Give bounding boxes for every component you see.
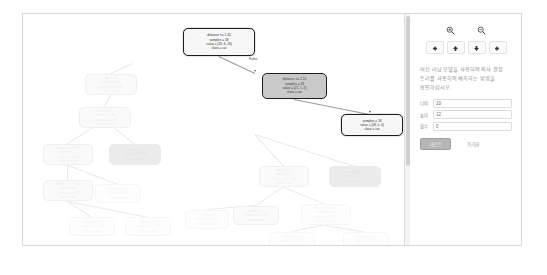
tree-canvas-panel[interactable]: age <= 0.5samples = 34value = [5, 5, 24]… bbox=[23, 14, 404, 245]
tree-edge bbox=[255, 186, 284, 206]
tree-edge bbox=[114, 128, 135, 145]
reset-button[interactable]: 초기화 bbox=[460, 138, 486, 150]
pan-up-button[interactable] bbox=[447, 41, 465, 54]
app-window: age <= 0.5samples = 34value = [5, 5, 24]… bbox=[22, 13, 522, 246]
tree-edge bbox=[294, 99, 370, 115]
height-field-label: 높이 bbox=[420, 112, 433, 118]
tree-node-inactive[interactable]: age <= 0.5samples = 6value = [3, 1, 2]cl… bbox=[259, 166, 309, 187]
node-text-line: class = car bbox=[84, 229, 99, 233]
count-field-label: 횟수 bbox=[420, 123, 433, 129]
node-text-line: class = bus bbox=[60, 195, 76, 199]
pan-down-button[interactable] bbox=[468, 41, 486, 54]
arrow-up-icon bbox=[452, 40, 459, 55]
tree-node-inactive[interactable]: speed <= 1.1samples = 34value = [5, 5, 2… bbox=[79, 107, 131, 128]
parameter-row: 높이 bbox=[420, 110, 512, 119]
node-text-line: class = truck bbox=[102, 89, 120, 93]
width-field-label: 너비 bbox=[420, 100, 433, 106]
vertical-scrollbar-thumb[interactable] bbox=[406, 16, 410, 166]
node-text-line: class = truck bbox=[59, 159, 77, 163]
node-text-line: class = bus bbox=[248, 218, 264, 222]
tree-node-inactive[interactable]: samples = 1value = [1, 0, 0]class = car bbox=[69, 217, 115, 236]
arrow-right-icon bbox=[494, 40, 501, 55]
tree-node-inactive[interactable]: samples = 4value = [3, 0, 1]class = car bbox=[329, 166, 381, 187]
pan-left-button[interactable] bbox=[426, 41, 444, 54]
edge-label-false: False bbox=[249, 57, 257, 61]
parameter-field-list: 너비높이횟수 bbox=[420, 99, 512, 131]
tree-edge bbox=[104, 95, 111, 107]
tree-edge bbox=[67, 165, 68, 180]
zoom-in-button[interactable] bbox=[443, 24, 458, 36]
node-text-line: class = truck bbox=[317, 219, 335, 223]
tree-node-inactive[interactable]: samples = 2value = [0, 0, 2]class = truc… bbox=[269, 232, 315, 245]
tree-node-active[interactable]: samples = 18value = [18, 0, 0]class = ca… bbox=[341, 114, 403, 136]
arrow-down-icon bbox=[473, 40, 480, 55]
tree-node-inactive[interactable]: age <= 0.5samples = 34value = [5, 5, 24]… bbox=[85, 74, 137, 95]
tree-node-inactive[interactable]: distance <= 1.35samples = 4value = [1, 3… bbox=[43, 180, 93, 201]
arrow-left-icon bbox=[431, 40, 438, 55]
zoom-out-icon bbox=[477, 26, 486, 35]
node-text-line: class = car bbox=[211, 46, 226, 50]
tree-node-active[interactable]: distance <= 2.15samples = 24value = [21,… bbox=[262, 73, 327, 99]
tree-edge bbox=[111, 63, 133, 74]
decision-tree-graph[interactable]: age <= 0.5samples = 34value = [5, 5, 24]… bbox=[23, 14, 404, 245]
node-text-line: class = car bbox=[199, 222, 214, 226]
action-button-row: 테스트 초기화 bbox=[420, 138, 512, 150]
pan-right-button[interactable] bbox=[489, 41, 507, 54]
node-text-line: class = car bbox=[287, 90, 302, 94]
tree-node-inactive[interactable]: distance <= 1.75samples = 4value = [1, 1… bbox=[301, 204, 351, 225]
tree-edge bbox=[67, 127, 93, 144]
tree-node-inactive[interactable]: samples = 2value = [1, 0, 1]class = car bbox=[343, 232, 389, 245]
tree-edge bbox=[284, 187, 326, 205]
tree-node-active[interactable]: distance <= 1.45samples = 58value = [26,… bbox=[183, 28, 255, 56]
pan-button-row bbox=[420, 41, 512, 54]
tree-node-inactive[interactable]: samples = 3value = [0, 3, 0]class = bus bbox=[125, 217, 171, 236]
tree-node-inactive[interactable]: distance <= 0.85samples = 7value = [4, 3… bbox=[43, 144, 93, 165]
control-panel: 머신 러닝 모델을 사용하여 의사 결정 트리를 사용하여 예측하는 방법을 확… bbox=[410, 14, 521, 245]
parameter-row: 너비 bbox=[420, 99, 512, 108]
zoom-button-row bbox=[420, 24, 512, 36]
node-text-line: class = truck bbox=[126, 157, 144, 161]
parameter-row: 횟수 bbox=[420, 122, 512, 131]
node-text-line: class = car bbox=[364, 127, 379, 131]
edge-arrow-icon bbox=[254, 70, 256, 72]
edge-arrow-icon bbox=[369, 111, 371, 113]
tree-node-inactive[interactable]: samples = 2value = [1, 1, 0]class = car bbox=[185, 210, 229, 229]
tree-node-inactive[interactable]: samples = 3value = [3, 0, 0]class = car bbox=[95, 184, 141, 203]
zoom-out-button[interactable] bbox=[474, 24, 489, 36]
help-text: 머신 러닝 모델을 사용하여 의사 결정 트리를 사용하여 예측하는 방법을 확… bbox=[420, 65, 512, 92]
test-button[interactable]: 테스트 bbox=[420, 138, 451, 150]
height-field[interactable] bbox=[433, 110, 512, 119]
zoom-in-icon bbox=[446, 26, 455, 35]
node-text-line: class = bus bbox=[140, 229, 156, 233]
node-text-line: class = car bbox=[110, 196, 125, 200]
node-text-line: class = truck bbox=[96, 122, 114, 126]
node-text-line: class = truck bbox=[283, 244, 301, 245]
node-text-line: class = car bbox=[358, 244, 373, 245]
node-text-line: class = car bbox=[276, 181, 291, 185]
count-field[interactable] bbox=[433, 122, 512, 131]
tree-node-inactive[interactable]: samples = 2value = [0, 1, 1]class = bus bbox=[233, 206, 279, 225]
tree-node-inactive[interactable]: samples = 27value = [1, 2, 24]class = tr… bbox=[109, 144, 161, 165]
tree-edge bbox=[292, 224, 326, 232]
width-field[interactable] bbox=[433, 99, 512, 108]
node-text-line: class = car bbox=[347, 179, 362, 183]
